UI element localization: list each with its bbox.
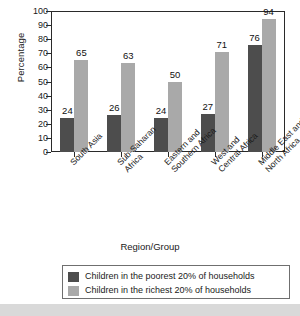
y-tick-mark xyxy=(46,110,51,111)
legend-label-richest: Children in the richest 20% of household… xyxy=(85,286,251,295)
y-tick-mark xyxy=(46,11,51,12)
legend-item-poorest: Children in the poorest 20% of household… xyxy=(68,270,289,283)
bar-value-label: 94 xyxy=(256,7,282,17)
y-tick-label: 30 xyxy=(24,105,48,114)
y-tick-label: 50 xyxy=(24,77,48,86)
bar-value-label: 63 xyxy=(115,51,141,61)
y-tick-mark xyxy=(46,124,51,125)
bottom-band xyxy=(0,304,300,316)
y-tick-mark xyxy=(46,82,51,83)
y-tick-label: 10 xyxy=(24,133,48,142)
bar xyxy=(121,63,135,152)
legend-swatch-richest-icon xyxy=(68,286,79,296)
y-tick-mark xyxy=(46,25,51,26)
y-tick-mark xyxy=(46,96,51,97)
y-tick-mark xyxy=(46,67,51,68)
chart-legend: Children in the poorest 20% of household… xyxy=(62,265,290,299)
bar-value-label: 50 xyxy=(162,70,188,80)
y-tick-label: 100 xyxy=(24,7,48,16)
y-tick-mark xyxy=(46,152,51,153)
y-tick-mark xyxy=(46,53,51,54)
bar xyxy=(107,115,121,152)
y-tick-label: 40 xyxy=(24,91,48,100)
legend-swatch-poorest-icon xyxy=(68,272,79,282)
y-tick-label: 60 xyxy=(24,63,48,72)
bar xyxy=(262,19,276,152)
bar xyxy=(215,52,229,152)
y-tick-label: 70 xyxy=(24,49,48,58)
y-tick-label: 90 xyxy=(24,21,48,30)
y-tick-label: 20 xyxy=(24,119,48,128)
y-tick-label: 0 xyxy=(24,148,48,157)
bar-chart-figure: Percentage 0102030405060708090100 246526… xyxy=(0,0,300,316)
x-axis-title: Region/Group xyxy=(0,241,300,252)
bar-value-label: 65 xyxy=(68,48,94,58)
y-tick-label: 80 xyxy=(24,35,48,44)
bar-value-label: 71 xyxy=(209,40,235,50)
bar xyxy=(60,118,74,152)
bar xyxy=(74,60,88,152)
legend-label-poorest: Children in the poorest 20% of household… xyxy=(85,272,255,281)
y-tick-mark xyxy=(46,39,51,40)
y-tick-mark xyxy=(46,138,51,139)
legend-item-richest: Children in the richest 20% of household… xyxy=(68,284,289,297)
